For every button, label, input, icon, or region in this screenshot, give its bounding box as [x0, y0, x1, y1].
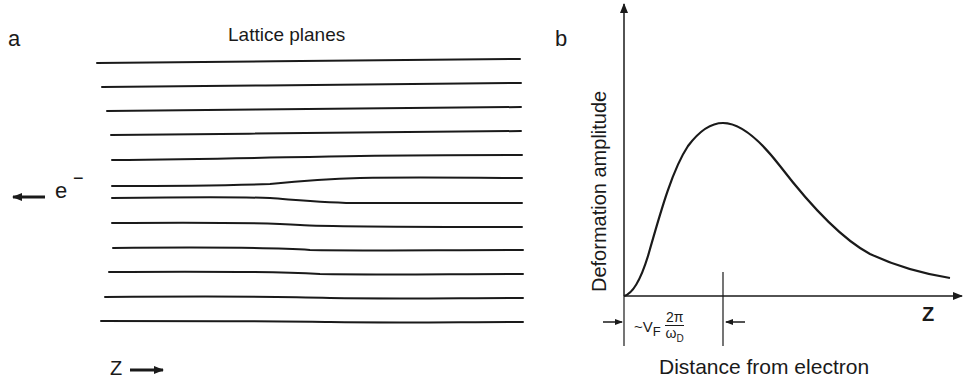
- lattice-planes: [97, 59, 523, 322]
- lattice-line-8: [112, 223, 522, 227]
- deformation-curve: [624, 123, 950, 296]
- lattice-line-5: [112, 155, 522, 160]
- lattice-line-2: [102, 83, 521, 87]
- lattice-line-9: [113, 248, 523, 251]
- lattice-line-3: [107, 107, 521, 111]
- lattice-line-12: [101, 321, 523, 322]
- lattice-line-1: [97, 59, 520, 63]
- lattice-line-7: [112, 197, 522, 203]
- lattice-line-4: [111, 131, 521, 135]
- diagram-graphics: [0, 0, 965, 384]
- lattice-line-10: [109, 272, 523, 275]
- lattice-line-11: [105, 297, 523, 299]
- lattice-line-6: [112, 178, 522, 186]
